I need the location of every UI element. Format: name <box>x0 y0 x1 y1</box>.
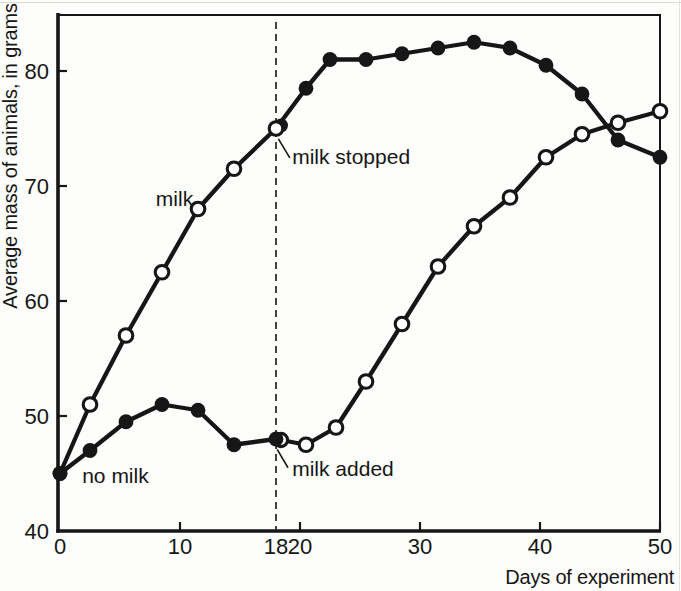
open-circle-marker <box>503 191 517 205</box>
y-axis-title: Average mass of animals, in grams <box>0 3 21 309</box>
scan-edge-artifact-top <box>0 2 681 3</box>
open-circle-marker <box>395 317 409 331</box>
y-tick-label: 60 <box>25 289 49 314</box>
open-circle-marker <box>329 421 343 435</box>
open-circle-marker <box>611 116 625 130</box>
x-tick-label: 30 <box>408 534 432 559</box>
open-circle-marker <box>575 127 589 141</box>
milk-growth-line-chart: 01018203040504050607080 Average mass of … <box>0 0 681 591</box>
filled-circle-marker <box>323 52 338 67</box>
filled-circle-marker <box>227 437 242 452</box>
filled-circle-marker <box>83 443 98 458</box>
filled-circle-marker <box>299 81 314 96</box>
filled-circle-marker <box>395 46 410 61</box>
milk-added-annotation: milk added <box>292 457 394 480</box>
x-tick-label: 0 <box>54 534 66 559</box>
x-tick-label: 18 <box>264 534 288 559</box>
filled-circle-marker <box>155 397 170 412</box>
leader-line <box>277 449 288 467</box>
filled-circle-marker <box>539 58 554 73</box>
x-axis-title: Days of experiment <box>505 566 674 588</box>
open-circle-marker <box>269 122 283 136</box>
open-circle-marker <box>227 162 241 176</box>
filled-circle-marker <box>359 52 374 67</box>
open-circle-marker <box>431 260 445 274</box>
filled-circle-marker <box>53 466 68 481</box>
x-tick-label: 50 <box>648 534 672 559</box>
open-circle-marker <box>539 150 553 164</box>
filled-circle-marker <box>575 87 590 102</box>
open-circle-marker <box>467 219 481 233</box>
open-circle-marker <box>653 104 667 118</box>
leader-line <box>278 139 289 158</box>
filled-circle-marker <box>269 432 284 447</box>
filled-circle-marker <box>119 414 134 429</box>
filled-circle-marker <box>653 150 668 165</box>
filled-circle-marker <box>611 133 626 148</box>
data-series-lines <box>60 42 660 473</box>
filled-circle-marker <box>467 35 482 50</box>
filled-circle-marker <box>503 41 518 56</box>
y-tick-label: 70 <box>25 174 49 199</box>
open-circle-marker <box>83 398 97 412</box>
open-circle-marker <box>359 375 373 389</box>
open-circle-marker <box>191 202 205 216</box>
y-tick-label: 50 <box>25 404 49 429</box>
plot-border-top-right <box>58 15 660 531</box>
open-circle-marker <box>119 329 133 343</box>
y-tick-label: 40 <box>25 519 49 544</box>
plot-border <box>56 13 661 533</box>
x-tick-label: 20 <box>288 534 312 559</box>
y-tick-label: 80 <box>25 59 49 84</box>
open-circle-marker <box>155 265 169 279</box>
scan-edge-artifact-right <box>679 0 680 591</box>
annotation-leader-lines <box>277 139 290 468</box>
milk-series-label: milk <box>156 187 194 210</box>
x-tick-label: 10 <box>168 534 192 559</box>
no-milk-series-label: no milk <box>82 464 149 487</box>
filled-circle-marker <box>431 41 446 56</box>
milk-stopped-annotation: milk stopped <box>292 145 410 168</box>
open-circle-marker <box>299 438 313 452</box>
filled-circle-marker <box>191 403 206 418</box>
x-tick-label: 40 <box>528 534 552 559</box>
